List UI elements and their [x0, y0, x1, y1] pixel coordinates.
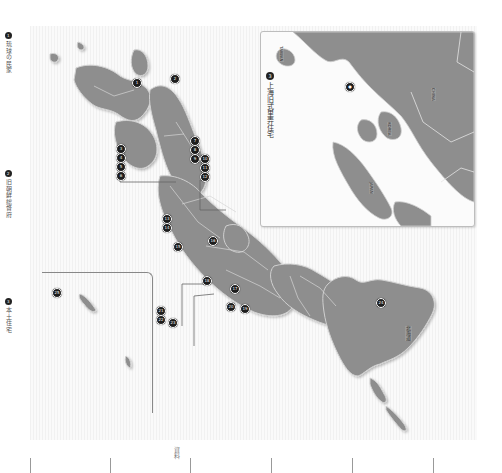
ruler-tick [352, 458, 353, 473]
ruler-tick [271, 458, 272, 473]
ruler-tick [433, 458, 434, 473]
map-marker[interactable]: 19 [240, 304, 250, 314]
map-marker[interactable]: 2 [170, 74, 180, 84]
ruler-tick [110, 458, 111, 473]
legend-item-1: 1 琉球の民家 [4, 32, 13, 74]
inset-title: 3 上海旧式里弄住宅 [265, 72, 275, 138]
inset-label-taiwan: TAIWAN [279, 46, 284, 62]
map-marker[interactable]: 12 [200, 172, 210, 182]
legend-number-badge: 2 [5, 170, 12, 177]
inset-number-badge: 3 [266, 72, 274, 80]
legend-label: 本土住宅 [4, 307, 13, 333]
map-marker[interactable]: 1 [132, 78, 142, 88]
map-marker[interactable]: 18 [202, 276, 212, 286]
inset-label-japan: JAPAN [369, 182, 374, 194]
inset-label-china: CHINA [431, 88, 436, 101]
inset-marker[interactable]: ● [345, 82, 355, 92]
map-marker[interactable]: 17 [230, 284, 240, 294]
map-marker[interactable]: 22 [156, 315, 166, 325]
region-label-hokkaido: 北海道 [405, 326, 412, 341]
inset-map-shanghai: 3 上海旧式里弄住宅 TAIWAN CHINA KOREA JAPAN ● [260, 31, 475, 227]
map-marker[interactable]: 25 [52, 288, 62, 298]
map-marker[interactable]: 15 [173, 242, 183, 252]
map-marker[interactable]: 14 [162, 223, 172, 233]
map-marker[interactable]: 23 [168, 318, 178, 328]
map-marker[interactable]: 16 [208, 236, 218, 246]
inset-map-svg [261, 32, 474, 226]
ruler-tick [30, 458, 31, 473]
legend-label: 琉球の民家 [4, 41, 13, 74]
legend-label: 旧朝鮮総督府 [4, 179, 13, 218]
legend-item-2: 2 旧朝鮮総督府 [4, 170, 13, 218]
legend-item-3: 3 本土住宅 [4, 298, 13, 333]
ruler-tick [190, 458, 191, 473]
map-marker[interactable]: 24 [376, 298, 386, 308]
inset-label-korea: KOREA [387, 122, 392, 136]
legend-number-badge: 1 [5, 32, 12, 39]
map-marker[interactable]: 6 [116, 171, 126, 181]
map-marker[interactable]: 20 [226, 302, 236, 312]
inset-title-text: 上海旧式里弄住宅 [265, 82, 275, 138]
ruler-label: 資料 [172, 447, 181, 459]
map-marker[interactable]: 9 [190, 154, 200, 164]
map-frame: 3 上海旧式里弄住宅 TAIWAN CHINA KOREA JAPAN ● 北海… [30, 26, 477, 440]
legend-number-badge: 3 [5, 298, 12, 305]
